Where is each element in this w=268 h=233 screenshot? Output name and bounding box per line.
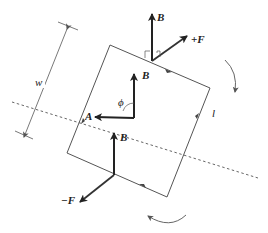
area-label-a: A	[84, 110, 92, 122]
loop-torque-diagram: w l B +F B A ϕ B −F	[0, 0, 268, 233]
b-label-bottom: B	[119, 131, 127, 143]
force-plus-label: +F	[191, 33, 205, 45]
phi-arc	[123, 103, 134, 111]
force-plus-vector	[152, 36, 187, 61]
area-vector-a	[95, 117, 134, 118]
b-label-center: B	[141, 69, 149, 81]
length-label: l	[212, 107, 215, 119]
width-dimension-line	[24, 29, 67, 137]
phi-label: ϕ	[118, 96, 124, 108]
force-minus-label: −F	[61, 194, 76, 206]
width-tick-bottom	[15, 131, 33, 139]
width-tick-top	[58, 22, 78, 30]
width-label: w	[35, 76, 43, 88]
rotation-arrow-counterclockwise	[148, 215, 186, 223]
b-label-top: B	[156, 11, 164, 23]
force-minus-vector	[80, 175, 114, 202]
rotation-arrow-clockwise	[225, 60, 236, 92]
